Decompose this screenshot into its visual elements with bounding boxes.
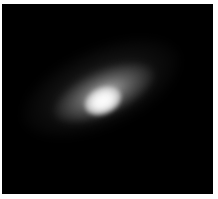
galaxy-image xyxy=(2,4,213,194)
